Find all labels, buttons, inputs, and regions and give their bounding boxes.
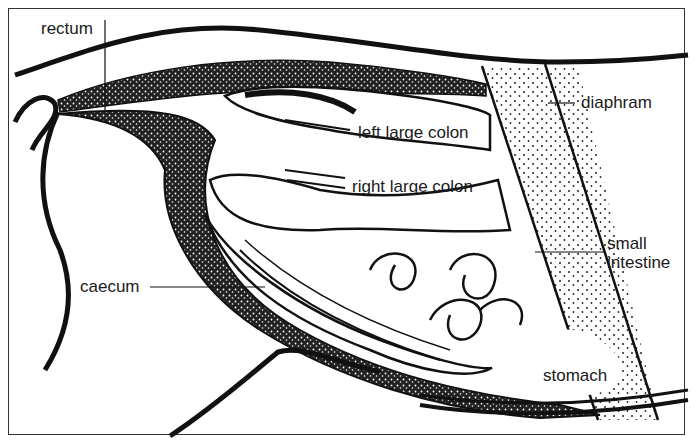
label-small-intestine-2: intestine [607,253,670,272]
label-rectum: rectum [41,19,93,38]
label-caecum: caecum [80,277,140,296]
label-left-large-colon: left large colon [358,123,469,142]
anatomy-diagram: rectum left large colon right large colo… [0,0,697,447]
hindleg-front-outline [43,112,69,370]
small-intestine-coils [370,254,522,340]
label-right-large-colon: right large colon [352,177,473,196]
label-stomach: stomach [543,366,607,385]
hindleg-back-outline [170,350,380,436]
label-small-intestine-1: small [607,234,647,253]
label-diaphram: diaphram [581,93,652,112]
